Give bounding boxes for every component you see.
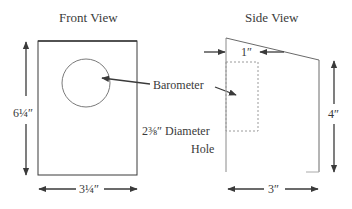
barometer-hole [62, 59, 110, 107]
front-height-label: 6¼″ [13, 107, 33, 119]
front-panel [38, 41, 137, 175]
top-offset-label: 1″ [241, 46, 252, 58]
front-width-label: 3¼″ [79, 183, 99, 195]
front-view-title: Front View [59, 11, 118, 24]
side-width-label: 3″ [268, 183, 279, 195]
barometer-leader-front [102, 78, 150, 84]
barometer-label: Barometer [153, 79, 204, 91]
diagram-canvas [0, 0, 352, 209]
side-view-title: Side View [245, 11, 299, 24]
hole-label-line1: 2⅜″ Diameter [142, 125, 210, 137]
hole-label-line2: Hole [191, 143, 214, 155]
side-roof-slope [226, 38, 319, 60]
barometer-recess-dashed [226, 62, 258, 131]
side-view-drawing [204, 38, 334, 189]
side-height-label: 4″ [328, 108, 339, 120]
front-view-drawing [26, 41, 137, 189]
